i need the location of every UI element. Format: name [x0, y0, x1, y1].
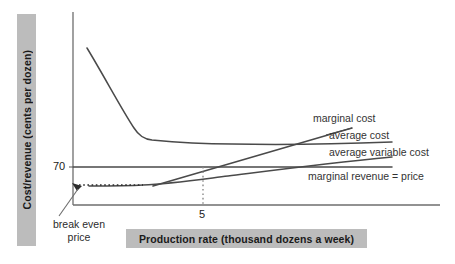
economics-cost-revenue-figure: Cost/revenue (cents per dozen) Productio…: [0, 0, 455, 264]
breakeven-line-1: break even: [36, 218, 122, 231]
x-axis-tick-label-5: 5: [199, 208, 205, 220]
series-label-average-variable-cost: average variable cost: [329, 146, 429, 158]
breakeven-price-annotation: break even price: [36, 218, 122, 244]
y-axis-tick-label-70: 70: [53, 160, 65, 172]
series-label-marginal-cost: marginal cost: [313, 112, 375, 124]
series-label-marginal-revenue: marginal revenue = price: [308, 170, 424, 182]
series-label-average-cost: average cost: [329, 129, 389, 141]
breakeven-line-2: price: [36, 231, 122, 244]
breakeven-arrow-leader: [59, 189, 78, 216]
